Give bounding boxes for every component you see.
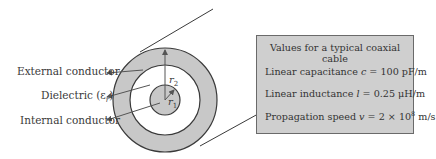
capacitance-row: Linear capacitance c = 100 pF/m <box>265 66 427 77</box>
values-box-title: Values for a typical coaxial cable <box>257 42 413 64</box>
external-conductor-label: External conductor <box>17 65 120 77</box>
internal-conductor-label: Internal conductor <box>20 114 120 126</box>
inductance-row: Linear inductance l = 0.25 μH/m <box>265 88 425 99</box>
speed-row: Propagation speed v = 2 × 108 m/s <box>265 110 436 122</box>
r1-label: r1 <box>168 96 177 110</box>
cable-top-edge <box>140 9 213 52</box>
r2-label: r2 <box>169 74 178 88</box>
dielectric-label: Dielectric (εr) <box>41 89 113 104</box>
values-box: Values for a typical coaxial cable Linea… <box>256 35 414 134</box>
